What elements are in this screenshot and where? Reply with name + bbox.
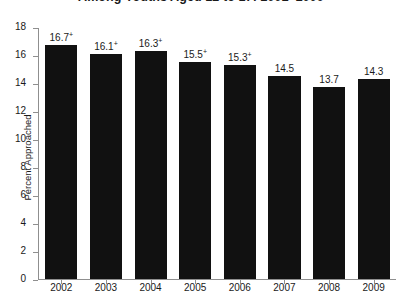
y-tick-12: 12 — [33, 112, 38, 113]
y-tick-label-8: 8 — [20, 161, 26, 172]
bar-chart: Among Youths Aged 12 to 17: 2002–2009 Pe… — [0, 0, 402, 302]
bar-value-label-2007: 14.5 — [275, 63, 294, 74]
bar-2005[interactable]: 15.5+ — [179, 62, 211, 279]
y-tick-label-2: 2 — [20, 245, 26, 256]
y-tick-6: 6 — [33, 196, 38, 197]
bar-2004[interactable]: 16.3+ — [135, 51, 167, 279]
x-tick-label-2004: 2004 — [128, 282, 173, 293]
bar-value-label-2006: 15.3+ — [228, 52, 252, 63]
chart-title-line-2: Among Youths Aged 12 to 17: 2002–2009 — [0, 0, 402, 4]
bar-slot-2009: 14.3 — [351, 28, 396, 279]
x-tick-label-2005: 2005 — [173, 282, 218, 293]
y-tick-16: 16 — [33, 56, 38, 57]
y-tick-14: 14 — [33, 84, 38, 85]
x-axis-line — [38, 279, 396, 280]
bar-slot-2002: 16.7+ — [39, 28, 84, 279]
bar-2007[interactable]: 14.5 — [268, 76, 300, 279]
bar-slot-2004: 16.3+ — [128, 28, 173, 279]
bar-value-label-2008: 13.7 — [319, 74, 338, 85]
x-tick-label-2006: 2006 — [218, 282, 263, 293]
bar-value-label-2009: 14.3 — [364, 66, 383, 77]
significance-marker-2006: + — [248, 50, 252, 57]
bar-value-label-2004: 16.3+ — [139, 38, 163, 49]
significance-marker-2002: + — [69, 31, 73, 38]
x-tick-label-2002: 2002 — [39, 282, 84, 293]
y-tick-label-18: 18 — [15, 21, 26, 32]
x-tick-label-2008: 2008 — [307, 282, 352, 293]
y-tick-label-14: 14 — [15, 77, 26, 88]
y-tick-label-16: 16 — [15, 49, 26, 60]
bar-2006[interactable]: 15.3+ — [224, 65, 256, 279]
bar-slot-2005: 15.5+ — [173, 28, 218, 279]
y-tick-label-12: 12 — [15, 105, 26, 116]
bar-2008[interactable]: 13.7 — [313, 87, 345, 279]
significance-marker-2003: + — [114, 39, 118, 46]
y-tick-label-4: 4 — [20, 217, 26, 228]
plot-area: 181614121086420 16.7+16.1+16.3+15.5+15.3… — [38, 28, 396, 280]
bar-series: 16.7+16.1+16.3+15.5+15.3+14.513.714.3 — [39, 28, 396, 279]
x-tick-label-2003: 2003 — [84, 282, 129, 293]
bar-value-label-2002: 16.7+ — [50, 32, 74, 43]
y-tick-label-6: 6 — [20, 189, 26, 200]
x-tick-label-2009: 2009 — [351, 282, 396, 293]
y-tick-2: 2 — [33, 252, 38, 253]
y-tick-0: 0 — [33, 280, 38, 281]
y-tick-label-0: 0 — [20, 273, 26, 284]
bar-2003[interactable]: 16.1+ — [90, 54, 122, 279]
bar-slot-2008: 13.7 — [307, 28, 352, 279]
y-tick-4: 4 — [33, 224, 38, 225]
bar-value-label-2005: 15.5+ — [183, 49, 207, 60]
y-tick-label-10: 10 — [15, 133, 26, 144]
bar-2002[interactable]: 16.7+ — [45, 45, 77, 279]
bar-slot-2007: 14.5 — [262, 28, 307, 279]
significance-marker-2004: + — [158, 36, 162, 43]
bar-slot-2003: 16.1+ — [84, 28, 129, 279]
bar-value-label-2003: 16.1+ — [94, 41, 118, 52]
x-tick-label-2007: 2007 — [262, 282, 307, 293]
significance-marker-2005: + — [203, 48, 207, 55]
y-tick-10: 10 — [33, 140, 38, 141]
bar-slot-2006: 15.3+ — [218, 28, 263, 279]
bar-2009[interactable]: 14.3 — [358, 79, 390, 279]
x-axis-labels: 20022003200420052006200720082009 — [39, 282, 396, 293]
chart-title: Among Youths Aged 12 to 17: 2002–2009 — [0, 0, 402, 4]
y-tick-8: 8 — [33, 168, 38, 169]
y-tick-18: 18 — [33, 28, 38, 29]
